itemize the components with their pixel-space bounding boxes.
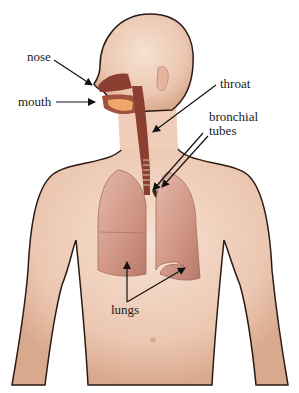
navel (150, 338, 156, 343)
label-throat: throat (220, 77, 250, 91)
label-bronchial: bronchial (209, 110, 258, 124)
label-mouth: mouth (18, 95, 51, 109)
respiratory-diagram: nose mouth throat bronchial tubes lungs (0, 0, 299, 393)
label-tubes: tubes (209, 124, 236, 138)
label-nose: nose (27, 50, 51, 64)
label-lungs: lungs (111, 303, 139, 317)
nose-arrow (54, 60, 92, 85)
left-lung (98, 170, 146, 276)
